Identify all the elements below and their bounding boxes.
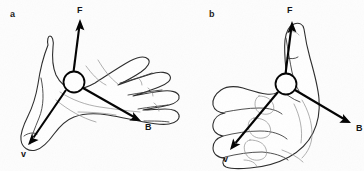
vector-label-F-panel-b: F (287, 6, 293, 15)
vector-label-B-panel-b: B (356, 124, 363, 133)
vector-label-F-panel-a: F (77, 6, 83, 15)
hand-outline (21, 36, 179, 151)
vector-F-panel-a (73, 19, 84, 76)
vector-B-arrowhead (339, 114, 351, 123)
vector-label-B-panel-a: B (145, 123, 152, 132)
junction-circle-panel-a (64, 72, 85, 93)
figure-root: a (0, 0, 364, 171)
vector-label-v-panel-a: v (21, 150, 26, 159)
panel-a-illustration (0, 0, 182, 171)
open-hand-drawing (21, 36, 179, 151)
vector-label-v-panel-b: v (223, 155, 228, 164)
panel-b-illustration (182, 0, 364, 171)
panel-b: b (182, 0, 364, 171)
vector-F-shaft (73, 26, 79, 76)
panel-a: a (0, 0, 182, 171)
junction-circle-panel-b (276, 74, 297, 95)
